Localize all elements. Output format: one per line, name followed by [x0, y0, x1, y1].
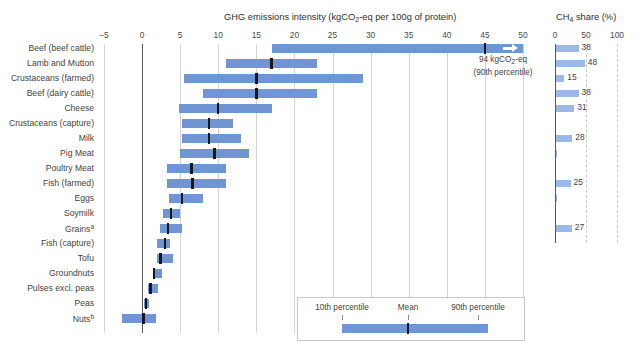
beef-overflow-annotation: 94 kgCO2-eq (90th percentile) — [457, 55, 549, 78]
gridline — [447, 44, 448, 333]
x-tick-label: 45 — [480, 30, 489, 40]
legend-mean-marker — [407, 323, 409, 334]
category-label-text: Crustaceans (capture) — [9, 118, 94, 128]
gridline — [294, 44, 295, 333]
category-label: Pig Meat — [60, 148, 94, 158]
ch4-share-value: 28 — [575, 132, 584, 142]
range-bar — [182, 134, 241, 143]
zero-axis-line — [142, 44, 143, 333]
ch4-share-value: 15 — [567, 72, 576, 82]
x-tick-label: 20 — [290, 30, 299, 40]
category-label-text: Tofu — [78, 253, 94, 263]
mean-marker — [255, 88, 257, 99]
mean-marker — [191, 178, 193, 189]
x-tick-label: 35 — [404, 30, 413, 40]
mean-marker — [153, 268, 155, 279]
ch4-share-plot: 3848153831282527 — [555, 44, 617, 243]
x-tick-label: 5 — [178, 30, 183, 40]
footnote-marker: a — [90, 223, 94, 230]
ch4-x-axis-ticks: 050100 — [555, 30, 617, 42]
mean-marker — [170, 208, 172, 219]
category-label: Crustaceans (capture) — [9, 118, 94, 128]
category-label-column: Beef (beef cattle)Lamb and MuttonCrustac… — [0, 44, 98, 333]
overflow-arrow-icon — [503, 44, 520, 53]
category-label-text: Grains — [65, 224, 90, 234]
ch4-share-bar — [555, 90, 579, 97]
category-label: Poultry Meat — [46, 163, 94, 173]
category-label-text: Lamb and Mutton — [27, 58, 94, 68]
mean-marker — [213, 148, 215, 159]
mean-marker — [208, 133, 210, 144]
legend-mean-label: Mean — [398, 303, 418, 312]
mean-marker — [217, 103, 219, 114]
category-label: Beef (beef cattle) — [29, 43, 94, 53]
x-tick-label: 10 — [214, 30, 223, 40]
range-bar — [184, 74, 363, 83]
category-label: Soymilk — [64, 208, 94, 218]
mean-marker — [149, 283, 151, 294]
category-label-text: Beef (beef cattle) — [29, 43, 94, 53]
gridline — [523, 44, 524, 333]
gridline — [218, 44, 219, 333]
category-label-text: Beef (dairy cattle) — [27, 88, 94, 98]
category-label: Milk — [79, 133, 94, 143]
legend-p10-tick — [342, 315, 343, 320]
mean-marker — [190, 163, 192, 174]
footnote-marker: b — [90, 313, 94, 320]
ch4-share-value: 25 — [574, 177, 583, 187]
legend-p90-tick — [478, 315, 479, 320]
gridline — [333, 44, 334, 333]
mean-marker — [484, 43, 486, 54]
beef-overflow-percentile: (90th percentile) — [457, 68, 549, 79]
category-label-text: Groundnuts — [49, 268, 94, 278]
category-label-text: Fish (farmed) — [43, 178, 94, 188]
category-label-text: Milk — [79, 133, 94, 143]
category-label-text: Soymilk — [64, 208, 94, 218]
category-label-text: Pig Meat — [60, 148, 94, 158]
gridline — [409, 44, 410, 333]
category-label-text: Crustaceans (farmed) — [11, 73, 94, 83]
range-bar — [160, 224, 182, 233]
mean-marker — [255, 73, 257, 84]
ch4-zero-axis-line — [555, 44, 556, 243]
category-label: Tofu — [78, 253, 94, 263]
beef-overflow-value: 94 kgCO2-eq — [457, 55, 549, 68]
ch4-share-bar — [555, 45, 579, 52]
ch4-panel-title: CH4 share (%) — [556, 12, 616, 23]
range-bar — [167, 164, 226, 173]
legend-p10-label: 10th percentile — [315, 303, 369, 312]
ch4-share-bar — [555, 135, 572, 142]
category-label: Grainsa — [65, 223, 94, 234]
mean-marker — [159, 253, 161, 264]
legend-p90-label: 90th percentile — [451, 303, 505, 312]
mean-marker — [270, 58, 272, 69]
mean-marker — [181, 193, 183, 204]
category-label-text: Eggs — [74, 193, 94, 203]
gridline — [180, 44, 181, 333]
ch4-gridline — [586, 44, 587, 243]
ch4-gridline — [617, 44, 618, 243]
gridline — [485, 44, 486, 333]
main-chart-title: GHG emissions intensity (kgCO2-eq per 10… — [224, 12, 456, 23]
ch4-share-value: 38 — [582, 87, 591, 97]
ch4-tick-label: 100 — [610, 30, 624, 40]
mean-marker — [142, 313, 144, 324]
category-label-text: Fish (capture) — [41, 238, 94, 248]
category-label: Peas — [74, 298, 94, 308]
range-bar — [122, 314, 156, 323]
category-label: Groundnuts — [49, 268, 94, 278]
category-label: Lamb and Mutton — [27, 58, 94, 68]
category-label: Beef (dairy cattle) — [27, 88, 94, 98]
legend-range-bar — [342, 324, 488, 333]
ghg-intensity-plot — [104, 44, 523, 333]
ch4-share-bar — [555, 60, 585, 67]
ch4-share-value: 31 — [577, 102, 586, 112]
category-label: Nutsb — [73, 313, 94, 324]
x-tick-label: 30 — [366, 30, 375, 40]
category-label: Crustaceans (farmed) — [11, 73, 94, 83]
category-label: Fish (capture) — [41, 238, 94, 248]
ch4-tick-label: 50 — [581, 30, 590, 40]
category-label-text: Cheese — [64, 103, 94, 113]
ch4-share-bar — [555, 225, 572, 232]
range-bar — [203, 89, 317, 98]
